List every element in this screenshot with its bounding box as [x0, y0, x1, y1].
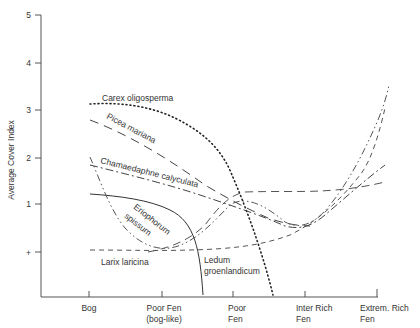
- y-tick-plus: +: [26, 248, 31, 258]
- chart-canvas: 5 4 3 2 1 + Average Cover Index Bog Poor…: [0, 0, 420, 328]
- y-tick-5: 5: [26, 10, 31, 20]
- x-tick-poor-fen-boglike-line1: Poor Fen: [147, 303, 182, 313]
- x-tick-poor-fen-boglike-line2: (bog-like): [146, 314, 182, 324]
- x-tick-extrem-rich-line2: Fen: [360, 314, 375, 324]
- y-axis: [35, 15, 41, 297]
- label-ledum-line2: groenlandicum: [204, 266, 260, 276]
- x-tick-inter-rich-line2: Fen: [296, 314, 311, 324]
- label-ledum-line1: Ledum: [204, 255, 230, 265]
- y-tick-labels: 5 4 3 2 1 +: [26, 10, 31, 258]
- y-tick-1: 1: [26, 199, 31, 209]
- label-chamaedaphne-calyculata: Chamaedaphne calyculata: [100, 155, 200, 189]
- x-axis: [41, 289, 378, 297]
- vegetation-cover-chart: 5 4 3 2 1 + Average Cover Index Bog Poor…: [0, 0, 420, 328]
- x-tick-labels: Bog Poor Fen (bog-like) Poor Fen Inter R…: [81, 303, 408, 324]
- x-tick-bog: Bog: [81, 303, 96, 313]
- label-picea-mariana: Picea mariana: [105, 111, 158, 145]
- x-tick-poor-fen-line2: Fen: [228, 314, 243, 324]
- x-tick-extrem-rich-line1: Extrem. Rich: [360, 303, 409, 313]
- y-tick-2: 2: [26, 153, 31, 163]
- label-larix-laricina: Larix laricina: [101, 257, 149, 267]
- label-carex-oligosperma: Carex oligosperma: [102, 93, 174, 103]
- y-axis-label: Average Cover Index: [6, 119, 16, 199]
- x-tick-poor-fen-line1: Poor: [228, 303, 246, 313]
- y-tick-4: 4: [26, 58, 31, 68]
- y-tick-3: 3: [26, 105, 31, 115]
- x-tick-inter-rich-line1: Inter Rich: [296, 303, 333, 313]
